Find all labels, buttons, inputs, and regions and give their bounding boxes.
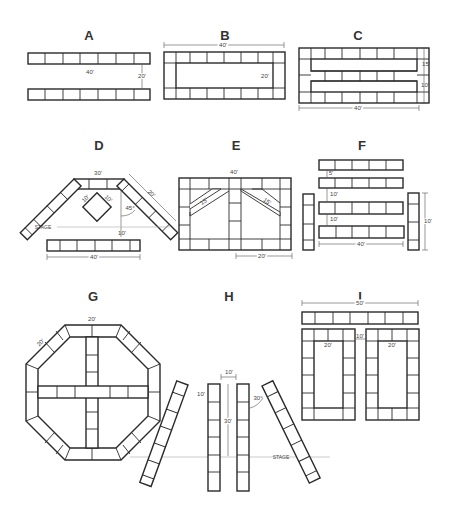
layout-c-upper-gap: 15' <box>422 61 430 67</box>
layout-f-right-side <box>408 193 419 250</box>
layout-a-gap: 20' <box>138 73 146 79</box>
layout-a-label: A <box>84 28 94 43</box>
layout-h-side-gap: 10' <box>197 391 205 397</box>
layout-b-length: 40' <box>219 42 227 48</box>
layout-b-label: B <box>220 28 229 43</box>
layout-h-left-column <box>208 384 220 491</box>
layout-i-gap: 10' <box>356 333 364 339</box>
layout-f-side: 10' <box>424 218 432 224</box>
layout-h-length: 30' <box>224 418 232 424</box>
layout-f-label: F <box>358 138 366 153</box>
layout-f-gap2: 10' <box>330 191 338 197</box>
layout-d-angle: 45° <box>125 205 135 211</box>
layout-a-length: 40' <box>86 69 94 75</box>
layout-i-left-inner: 20' <box>324 342 332 348</box>
layout-f-left-side <box>303 194 314 250</box>
layout-a: A 40' 20' <box>28 28 150 100</box>
layout-f-gap1: 5' <box>329 170 333 176</box>
layout-d-label: D <box>94 138 103 153</box>
table-layout-diagram: A 40' 20' B 40' <box>0 0 452 520</box>
layout-d-left-arm <box>20 179 81 240</box>
layout-f-gap3: 10' <box>330 216 338 222</box>
layout-d-top: 30' <box>94 170 102 176</box>
layout-g-label: G <box>88 289 98 304</box>
layout-h-right-column <box>237 384 249 491</box>
layout-c: C 15' 10' 40' <box>299 28 430 111</box>
layout-d-stage: STAGE <box>35 224 52 230</box>
layout-g-top: 20' <box>88 316 96 322</box>
layout-c-label: C <box>353 28 363 43</box>
layout-e-half: 20' <box>258 253 266 259</box>
layout-d-front: 40' <box>90 254 98 260</box>
layout-f: F 5' 10' 10' 10' 40' <box>303 138 432 250</box>
layout-e: E 40' 15' 15' 20' <box>179 138 292 259</box>
layout-d-side: 20' <box>147 189 157 199</box>
layout-i-top-row <box>302 312 418 324</box>
layout-i-length: 50' <box>356 300 364 306</box>
layout-h-angle: 30° <box>253 395 263 401</box>
layout-h-label: H <box>224 289 233 304</box>
layout-a-bottom-row <box>28 89 150 100</box>
layout-h-stage: STAGE <box>273 454 290 460</box>
layout-e-length: 40' <box>230 169 238 175</box>
layout-e-label: E <box>232 138 241 153</box>
layout-c-lower-gap: 10' <box>421 82 429 88</box>
layout-h-spacing: 10' <box>225 369 233 375</box>
layout-c-length: 40' <box>354 105 362 111</box>
layout-d: D 30' 20' 10' 10' 45° STAGE 10' 40' <box>20 138 177 260</box>
layout-i: I 50' 20' 10' <box>302 289 419 420</box>
layout-b-width: 20' <box>261 73 269 79</box>
layout-d-gap: 10' <box>118 230 126 236</box>
layout-b: B 40' 20' <box>164 28 285 99</box>
layout-a-top-row <box>28 53 150 64</box>
layout-f-length: 40' <box>357 241 365 247</box>
layout-i-right-inner: 20' <box>388 342 396 348</box>
layout-g: G 20' 20' <box>26 289 160 460</box>
